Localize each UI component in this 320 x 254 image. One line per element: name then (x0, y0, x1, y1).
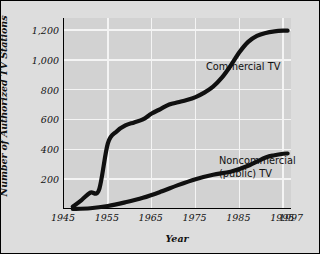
x-tick-label: 1945 (51, 212, 75, 223)
x-tick-label: 1985 (226, 212, 250, 223)
series-label-noncommercial-tv: Noncommercial (public) TV (219, 155, 296, 180)
chart-figure: Number of Authorized TV Stations 2004006… (0, 0, 320, 254)
y-tick-label: 1,200 (5, 24, 59, 35)
x-tick-label: 1955 (95, 212, 119, 223)
plot-area: Commercial TV Noncommercial (public) TV (63, 18, 291, 209)
x-axis-tick-labels: 1945195519651975198519951997 (63, 212, 291, 228)
x-axis-title: Year (63, 233, 291, 244)
y-tick-label: 1,000 (5, 54, 59, 65)
y-tick-label: 400 (5, 144, 59, 155)
y-tick-label: 600 (5, 114, 59, 125)
y-tick-label: 200 (5, 174, 59, 185)
series-line-commercial-tv (73, 31, 288, 207)
y-tick-label: 800 (5, 84, 59, 95)
series-curves (64, 18, 292, 209)
y-axis-tick-labels: 2004006008001,0001,200 (1, 18, 59, 209)
x-tick-label: 1965 (139, 212, 163, 223)
x-tick-label: 1975 (182, 212, 206, 223)
x-tick-label: 1997 (279, 212, 303, 223)
series-label-commercial-tv: Commercial TV (206, 61, 280, 74)
